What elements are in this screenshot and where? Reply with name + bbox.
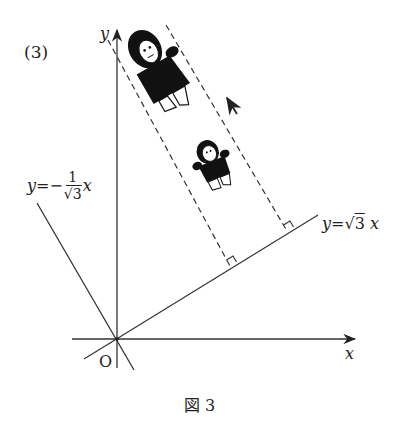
frac-denominator: √3	[64, 186, 82, 201]
eq-var: x	[83, 176, 92, 195]
problem-number: (3)	[24, 42, 48, 62]
figure-caption: 図 3	[184, 392, 215, 416]
origin-label: O	[99, 352, 112, 371]
direction-arrow-icon	[227, 98, 237, 114]
eq-var: x	[370, 214, 379, 233]
fraction: 1 √3	[64, 170, 82, 201]
equation-neg-inv-sqrt3: y=− 1 √3 x	[27, 170, 92, 201]
x-axis-label: x	[345, 344, 354, 363]
root-value: 3	[355, 214, 365, 233]
eq-lhs: y=−	[27, 176, 63, 195]
small-runner-figure	[185, 133, 241, 195]
dashed-guide-right	[166, 25, 287, 231]
frac-numerator: 1	[66, 170, 79, 186]
line-y-sqrt3x	[84, 215, 318, 359]
equation-sqrt3: y=√3 x	[322, 214, 379, 233]
root-value: 3	[73, 186, 82, 202]
y-axis-label: y	[100, 24, 109, 43]
origin-point	[115, 337, 119, 341]
eq-lhs: y=	[322, 214, 344, 233]
right-angle-mark-right	[284, 221, 294, 227]
sqrt-sign: √	[344, 214, 354, 233]
line-y-neg-inv-sqrt3x	[37, 203, 134, 370]
